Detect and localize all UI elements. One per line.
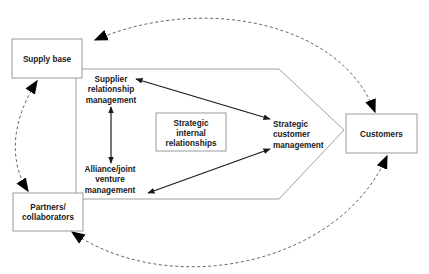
- strategic-customer-line3: management: [273, 141, 324, 150]
- supplier-rel-line2: relationship: [88, 85, 134, 94]
- alliance-line1: Alliance/joint: [85, 165, 136, 174]
- strategic-internal-line2: internal: [176, 129, 206, 138]
- supplier-rel-line3: management: [86, 96, 137, 105]
- customers-node: Customers: [346, 114, 417, 153]
- strategic-customer-line1: Strategic: [273, 120, 308, 129]
- alliance-line3: management: [85, 186, 136, 195]
- supply-base-label: Supply base: [23, 55, 72, 64]
- strategic-internal-node: Strategic internal relationships: [156, 113, 226, 151]
- dashed-arrow-supply-partners: [15, 81, 37, 191]
- strategic-internal-line3: relationships: [166, 139, 217, 148]
- partners-label-line1: Partners/: [30, 203, 66, 212]
- strategic-internal-line1: Strategic: [173, 119, 208, 128]
- strategic-customer-line2: customer: [273, 130, 311, 139]
- alliance-line2: venture: [95, 175, 125, 184]
- relationship-diagram: Supply base Partners/ collaborators Cust…: [0, 0, 429, 274]
- supplier-rel-line1: Supplier: [95, 75, 129, 84]
- partners-label-line2: collaborators: [22, 213, 74, 222]
- customers-label: Customers: [360, 130, 403, 139]
- partners-node: Partners/ collaborators: [13, 193, 83, 231]
- supply-base-node: Supply base: [12, 39, 82, 78]
